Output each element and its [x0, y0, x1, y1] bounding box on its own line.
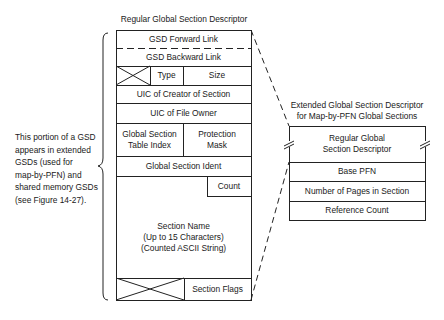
side-note: This portion of a GSD appears in extende… [15, 131, 105, 207]
extended-gsd-title: Extended Global Section Descriptor for M… [284, 100, 430, 122]
side-note-line: This portion of a GSD [15, 131, 105, 144]
ext-field-base-pfn: Base PFN [289, 162, 425, 181]
field-count: Count [207, 176, 251, 196]
field-protection-mask: Protection Mask [183, 123, 251, 156]
extended-title-line1: Extended Global Section Descriptor [284, 100, 430, 111]
protection-line2: Mask [207, 140, 227, 151]
expansion-line-bottom [251, 162, 289, 300]
section-name-line3: (Counted ASCII String) [141, 243, 226, 254]
field-section-flags: Section Flags [184, 278, 251, 300]
field-backward-link: GSD Backward Link [116, 48, 251, 66]
table-index-line2: Table Index [128, 140, 171, 151]
ext-field-num-pages: Number of Pages in Section [289, 181, 425, 201]
ext-field-regular-gsd: Regular Global Section Descriptor [289, 126, 425, 162]
regular-gsd-title: Regular Global Section Descriptor [112, 14, 256, 25]
extended-title-line2: for Map-by-PFN Global Sections [284, 111, 430, 122]
field-uic-owner: UIC of File Owner [116, 103, 251, 123]
side-note-line: (see Figure 14-27). [15, 194, 105, 207]
protection-line1: Protection [198, 129, 236, 140]
table-index-line1: Global Section [122, 129, 176, 140]
section-name-line1: Section Name [157, 221, 210, 232]
field-uic-creator: UIC of Creator of Section [116, 85, 251, 103]
field-ident: Global Section Ident [116, 156, 251, 176]
side-note-line: GSDs (used for [15, 156, 105, 169]
field-type: Type [150, 66, 183, 85]
field-table-index: Global Section Table Index [116, 123, 183, 156]
side-note-line: shared memory GSDs [15, 181, 105, 194]
field-forward-link: GSD Forward Link [116, 30, 251, 48]
ext-regular-line2: Section Descriptor [323, 144, 391, 155]
ext-regular-line1: Regular Global [329, 133, 385, 144]
field-size: Size [183, 66, 251, 85]
side-note-line: map-by-PFN) and [15, 169, 105, 182]
section-name-line2: (Up to 15 Characters) [143, 232, 224, 243]
field-section-name: Section Name (Up to 15 Characters) (Coun… [116, 196, 251, 278]
side-note-line: appears in extended [15, 144, 105, 157]
ext-field-ref-count: Reference Count [289, 201, 425, 220]
